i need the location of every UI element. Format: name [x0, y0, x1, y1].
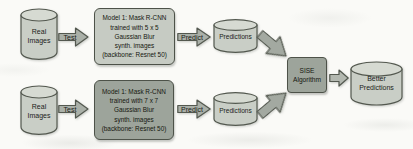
predictions-label-top: Predictions: [213, 32, 258, 41]
real-images-label-bottom: Real Images: [22, 102, 56, 120]
predict-label-top: Predict: [176, 33, 208, 42]
model-box-bottom-line4: synth. images: [95, 115, 173, 124]
cylinder-top: [21, 86, 57, 98]
predict-label-bottom: Predict: [176, 105, 208, 114]
sise-algorithm-label: SISE Algorithm: [290, 66, 324, 84]
output-arrow: [329, 69, 349, 87]
cylinder-top: [21, 9, 57, 21]
real-images-label-top: Real Images: [22, 27, 56, 45]
model-box-bottom: Model 1: Mask R-CNN trained with 7 x 7 G…: [94, 80, 174, 140]
test-label-top: Test: [57, 33, 83, 42]
better-predictions-label: Better Predictions: [350, 74, 403, 92]
model-box-top-line2: trained with 5 x 5: [95, 23, 174, 32]
model-box-bottom-line5: (backbone: Resnet 50): [95, 124, 173, 133]
arrow-shape: [330, 70, 348, 86]
cylinder-top: [214, 20, 257, 31]
sise-algorithm-box: SISE Algorithm: [287, 57, 327, 93]
model-box-top-line4: synth. images: [95, 41, 174, 50]
model-box-bottom-line1: Model 1: Mask R-CNN: [95, 87, 173, 96]
model-box-bottom-line3: Gaussian Blur: [95, 105, 173, 114]
pipeline-diagram: Real Images Test Model 1: Mask R-CNN tra…: [0, 0, 413, 149]
cylinder-top: [214, 93, 257, 104]
model-box-top-line3: Gaussian Blur: [95, 32, 174, 41]
model-box-top-line5: (backbone: Resnet 50): [95, 50, 174, 59]
model-box-bottom-line2: trained with 7 x 7: [95, 96, 173, 105]
model-box-top: Model 1: Mask R-CNN trained with 5 x 5 G…: [94, 8, 175, 65]
predictions-label-bottom: Predictions: [213, 106, 258, 115]
model-box-top-line1: Model 1: Mask R-CNN: [95, 13, 174, 22]
test-label-bottom: Test: [57, 105, 83, 114]
